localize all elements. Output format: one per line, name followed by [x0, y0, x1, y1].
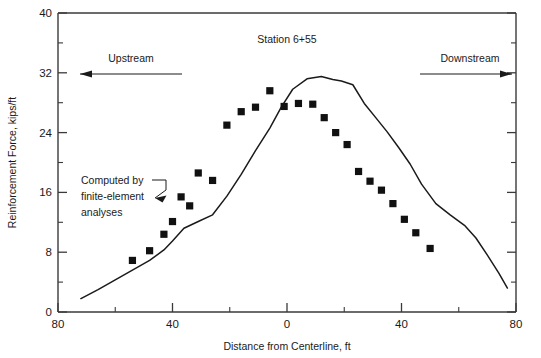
- measured-data-point: [366, 178, 373, 185]
- measured-data-point: [281, 103, 288, 110]
- chart-figure: 0816243240804004080Distance from Centerl…: [0, 0, 541, 358]
- fem-curve: [81, 77, 508, 299]
- computed-annotation-line1: Computed by: [81, 174, 144, 186]
- measured-data-point: [252, 104, 259, 111]
- measured-data-point: [186, 202, 193, 209]
- station-label: Station 6+55: [257, 33, 316, 45]
- reinforcement-force-chart: 0816243240804004080Distance from Centerl…: [0, 0, 541, 358]
- measured-data-point: [195, 169, 202, 176]
- computed-annotation-line3: analyses: [81, 206, 122, 218]
- y-tick-label: 16: [39, 186, 52, 198]
- measured-data-point: [412, 229, 419, 236]
- y-tick-label: 32: [39, 67, 52, 79]
- y-tick-label: 24: [39, 127, 52, 139]
- measured-data-point: [321, 114, 328, 121]
- measured-data-point: [344, 141, 351, 148]
- measured-data-point: [177, 193, 184, 200]
- measured-data-point: [209, 177, 216, 184]
- measured-data-point: [378, 187, 385, 194]
- measured-data-point: [295, 100, 302, 107]
- upstream-label: Upstream: [108, 52, 154, 64]
- measured-data-point: [146, 247, 153, 254]
- x-tick-label: 0: [284, 318, 290, 330]
- measured-data-point: [355, 168, 362, 175]
- y-tick-label: 8: [46, 246, 52, 258]
- x-tick-label: 40: [166, 318, 179, 330]
- x-tick-label: 80: [52, 318, 65, 330]
- measured-data-point: [223, 122, 230, 129]
- measured-data-point: [332, 129, 339, 136]
- measured-data-point: [309, 101, 316, 108]
- downstream-label: Downstream: [441, 52, 500, 64]
- measured-data-point: [129, 257, 136, 264]
- measured-data-point: [266, 87, 273, 94]
- measured-data-point: [427, 245, 434, 252]
- measured-data-point: [401, 216, 408, 223]
- measured-data-point: [169, 218, 176, 225]
- computed-annotation-leader: [152, 180, 166, 198]
- measured-data-point: [160, 231, 167, 238]
- x-tick-label: 40: [395, 318, 408, 330]
- y-tick-label: 0: [46, 306, 52, 318]
- computed-annotation-line2: finite-element: [81, 190, 144, 202]
- x-axis-title: Distance from Centerline, ft: [223, 340, 350, 352]
- downstream-arrow-head-icon: [500, 71, 512, 78]
- y-tick-label: 40: [39, 7, 52, 19]
- x-tick-label: 80: [510, 318, 523, 330]
- upstream-arrow-head-icon: [80, 71, 92, 78]
- measured-data-point: [238, 108, 245, 115]
- measured-data-point: [389, 200, 396, 207]
- y-axis-title: Reinforcement Force, kips/ft: [6, 97, 18, 228]
